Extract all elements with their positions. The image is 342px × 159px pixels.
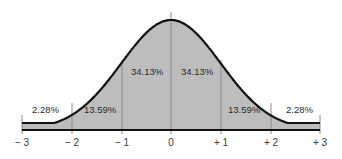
x-tick-plus-3: + 3 [313, 137, 328, 148]
sd-dividers [22, 12, 320, 134]
normal-distribution-chart: 2.28% 13.59% 34.13% 34.13% 13.59% 2.28% … [0, 0, 342, 159]
region-label-0-to-plus-1: 34.13% [181, 66, 214, 77]
region-label-right-tail: 2.28% [286, 104, 313, 115]
x-tick-minus-2: − 2 [65, 137, 80, 148]
region-label-plus-1-to-plus-2: 13.59% [228, 104, 261, 115]
x-tick-plus-1: + 1 [214, 137, 229, 148]
region-label-minus-1-to-0: 34.13% [131, 66, 164, 77]
region-label-minus-2-to-minus-1: 13.59% [84, 104, 117, 115]
x-tick-minus-1: − 1 [115, 137, 130, 148]
x-tick-plus-2: + 2 [264, 137, 279, 148]
region-label-left-tail: 2.28% [32, 104, 59, 115]
x-tick-minus-3: − 3 [15, 137, 30, 148]
x-tick-zero: 0 [168, 137, 174, 148]
